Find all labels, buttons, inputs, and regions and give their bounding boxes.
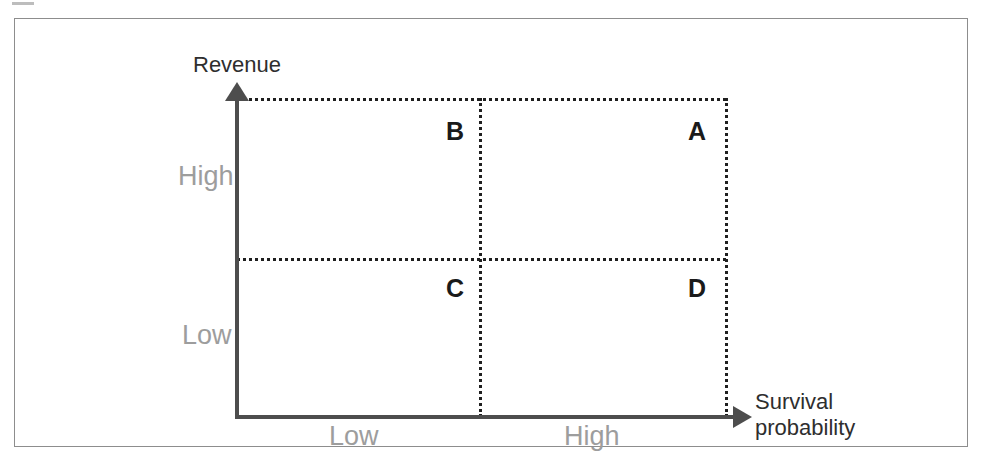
y-axis-arrow-icon bbox=[225, 82, 249, 101]
y-axis-tick-label-high: High bbox=[178, 163, 234, 190]
x-axis-tick-label-low: Low bbox=[329, 423, 379, 450]
x-axis-arrow-icon bbox=[733, 406, 752, 428]
x-axis-title-line1: Survival bbox=[755, 389, 855, 415]
quadrant-label-d: D bbox=[688, 276, 706, 301]
quadrant-label-c: C bbox=[446, 276, 464, 301]
y-axis-title: Revenue bbox=[193, 52, 281, 78]
quadrant-label-b: B bbox=[446, 119, 464, 144]
y-axis-tick-label-low: Low bbox=[182, 322, 232, 349]
scan-artifact-mark bbox=[12, 2, 34, 5]
quadrant-diagram-figure: B A C D High Low Low High Revenue Surviv… bbox=[0, 0, 982, 461]
grid-line-vertical-midline bbox=[479, 98, 482, 417]
y-axis-line bbox=[235, 97, 239, 419]
grid-line-right-dashed bbox=[725, 98, 728, 417]
figure-border-frame: B A C D High Low Low High Revenue Surviv… bbox=[14, 18, 968, 447]
quadrant-label-a: A bbox=[688, 119, 706, 144]
x-axis-line bbox=[235, 415, 748, 419]
x-axis-title-line2: probability bbox=[755, 415, 855, 441]
x-axis-title: Survival probability bbox=[755, 389, 855, 440]
x-axis-tick-label-high: High bbox=[564, 423, 620, 450]
